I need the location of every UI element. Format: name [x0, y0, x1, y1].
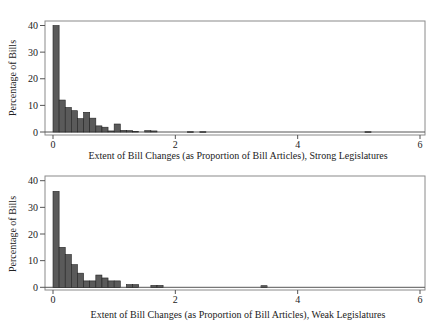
histogram-bar	[114, 124, 120, 132]
histogram-bar	[65, 108, 71, 133]
y-tick-label: 10	[28, 255, 38, 266]
histogram-bar	[261, 286, 267, 288]
x-axis: 0246	[51, 290, 423, 305]
histogram-bar	[102, 127, 108, 132]
histogram-bar	[84, 112, 90, 132]
histogram-bar	[108, 131, 114, 132]
histogram-bar	[108, 281, 114, 287]
histogram-bar	[90, 281, 96, 287]
histogram-bar	[151, 285, 157, 287]
histogram-bar	[96, 275, 102, 287]
y-axis-label: Percentage of Bills	[7, 196, 18, 272]
x-tick-label: 0	[51, 139, 56, 150]
histogram-bar	[102, 278, 108, 287]
histogram-bar	[151, 131, 157, 132]
x-axis-label: Extent of Bill Changes (as Proportion of…	[91, 309, 386, 321]
x-axis: 0246	[51, 135, 423, 150]
x-axis-label: Extent of Bill Changes (as Proportion of…	[88, 150, 387, 162]
histogram-bar	[77, 273, 83, 287]
x-tick-label: 6	[418, 294, 423, 305]
x-tick-label: 2	[173, 294, 178, 305]
y-tick-label: 40	[28, 20, 38, 31]
histogram-bars	[45, 26, 425, 133]
y-tick-label: 20	[28, 229, 38, 240]
y-axis: 010203040	[28, 20, 45, 138]
plot-frame	[45, 176, 425, 290]
strong-legislatures-panel: 010203040 0246 Percentage of Bills Exten…	[7, 20, 425, 162]
histogram-bar	[133, 285, 139, 288]
y-axis-label: Percentage of Bills	[7, 40, 18, 116]
histogram-bar	[200, 132, 206, 133]
x-tick-label: 4	[295, 139, 300, 150]
histogram-bar	[120, 130, 126, 132]
histogram-bar	[65, 255, 71, 288]
y-tick-label: 0	[33, 282, 38, 293]
histogram-bar	[188, 132, 194, 133]
histogram-bar	[59, 247, 65, 287]
histogram-bar	[53, 26, 59, 133]
histogram-bar	[365, 132, 371, 133]
histogram-bar	[126, 131, 132, 132]
x-tick-label: 0	[51, 294, 56, 305]
y-tick-label: 40	[28, 175, 38, 186]
histogram-bar	[77, 119, 83, 132]
histogram-bar	[145, 131, 151, 132]
histogram-bar	[126, 285, 132, 288]
histogram-bar	[90, 118, 96, 132]
y-tick-label: 20	[28, 73, 38, 84]
x-tick-label: 4	[295, 294, 300, 305]
weak-legislatures-panel: 010203040 0246 Percentage of Bills Exten…	[7, 175, 425, 321]
y-tick-label: 0	[33, 127, 38, 138]
histogram-figure: 010203040 0246 Percentage of Bills Exten…	[0, 0, 440, 326]
histogram-bar	[133, 131, 139, 132]
y-axis: 010203040	[28, 175, 45, 293]
histogram-bars	[45, 191, 425, 287]
histogram-bar	[96, 126, 102, 132]
x-tick-label: 6	[418, 139, 423, 150]
histogram-bar	[114, 281, 120, 287]
y-tick-label: 30	[28, 202, 38, 213]
x-tick-label: 2	[173, 139, 178, 150]
histogram-bar	[71, 265, 77, 288]
plot-frame	[45, 21, 425, 135]
histogram-bar	[157, 285, 163, 287]
y-tick-label: 10	[28, 100, 38, 111]
histogram-bar	[59, 100, 65, 132]
histogram-bar	[53, 191, 59, 287]
histogram-bar	[84, 281, 90, 287]
y-tick-label: 30	[28, 47, 38, 58]
histogram-bar	[71, 111, 77, 132]
